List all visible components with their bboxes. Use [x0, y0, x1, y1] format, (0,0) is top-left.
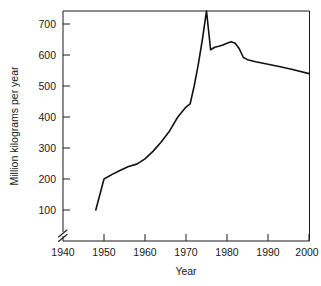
- y-tick-label-200: 200: [38, 173, 56, 185]
- chart-page: 700 600 500 400 300 200 100 1940 1950 19…: [0, 0, 321, 286]
- y-tick-label-300: 300: [38, 142, 56, 154]
- y-tick-label-500: 500: [38, 80, 56, 92]
- x-tick-label-1950: 1950: [92, 246, 116, 258]
- y-tick-label-100: 100: [38, 204, 56, 216]
- line-chart: 700 600 500 400 300 200 100 1940 1950 19…: [0, 0, 321, 286]
- y-axis-title: Million kilograms per year: [8, 66, 20, 186]
- x-tick-label-1960: 1960: [133, 246, 157, 258]
- y-tick-label-600: 600: [38, 49, 56, 61]
- y-tick-label-400: 400: [38, 111, 56, 123]
- x-tick-label-1980: 1980: [215, 246, 239, 258]
- x-axis-tick-labels: 1940 1950 1960 1970 1980 1990 2000: [51, 246, 319, 258]
- x-tick-label-1940: 1940: [51, 246, 75, 258]
- y-tick-label-700: 700: [38, 18, 56, 30]
- x-axis-title: Year: [175, 265, 197, 277]
- x-tick-label-1970: 1970: [174, 246, 198, 258]
- x-tick-label-1990: 1990: [256, 246, 280, 258]
- x-tick-label-2000: 2000: [295, 246, 319, 258]
